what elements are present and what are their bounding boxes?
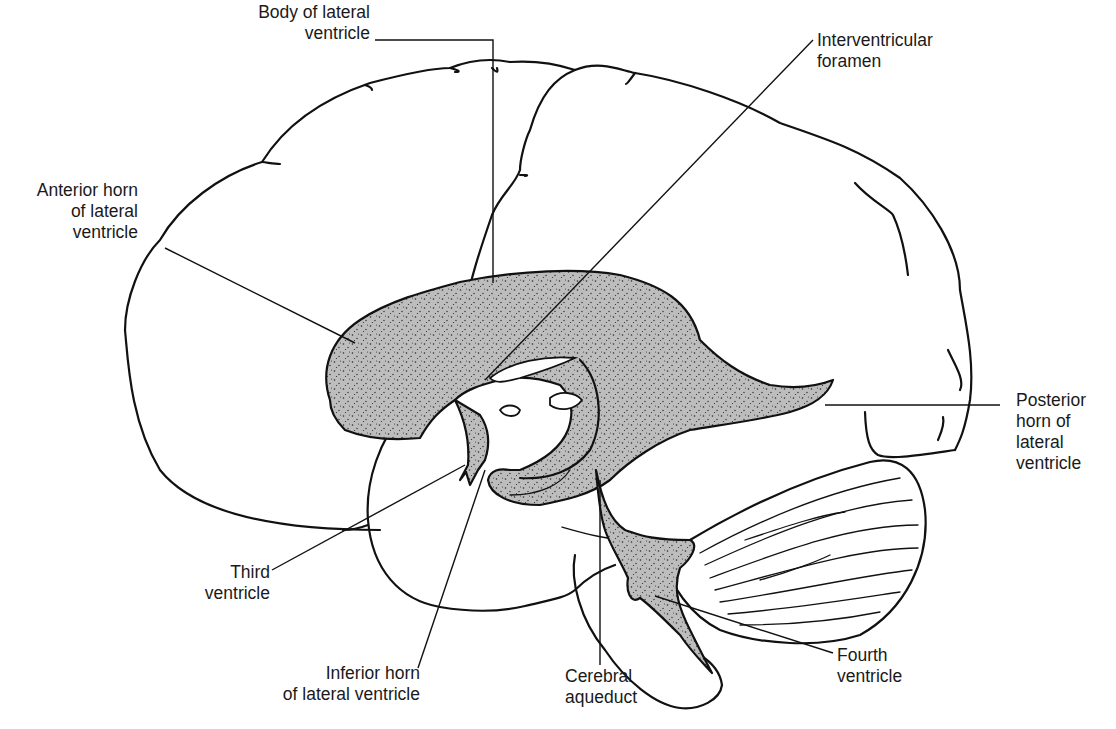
label-third-ventricle: Third ventricle	[190, 562, 270, 604]
aqueduct-fourth-ventricle	[596, 470, 712, 673]
lateral-ventricle	[326, 271, 833, 505]
third-ventricle-shape	[455, 400, 488, 485]
label-interventricular-foramen: Interventricular foramen	[817, 30, 933, 72]
brain-illustration	[0, 0, 1116, 729]
label-cerebral-aqueduct: Cerebral aqueduct	[565, 666, 637, 708]
leader-anterior-horn	[165, 248, 355, 343]
label-fourth-ventricle: Fourth ventricle	[837, 645, 902, 687]
label-posterior-horn: Posterior horn of lateral ventricle	[1016, 390, 1086, 474]
ventricles-diagram: Body of lateral ventricle Interventricul…	[0, 0, 1116, 729]
leader-third-ventricle	[272, 465, 465, 570]
label-inferior-horn: Inferior horn of lateral ventricle	[270, 663, 420, 705]
label-anterior-horn: Anterior horn of lateral ventricle	[10, 180, 138, 243]
label-body-of-lateral-ventricle: Body of lateral ventricle	[225, 2, 370, 44]
cerebellum	[665, 460, 926, 643]
leader-inferior-horn	[418, 470, 485, 668]
